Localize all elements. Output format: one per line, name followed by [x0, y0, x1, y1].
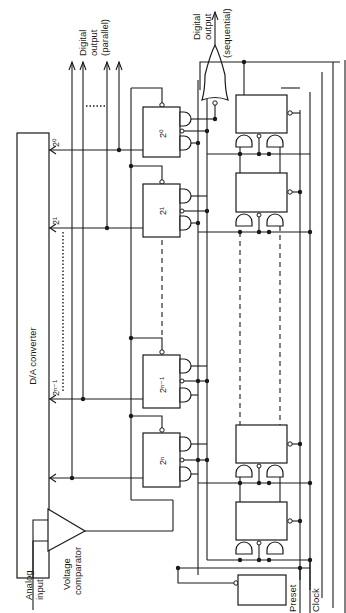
svg-text:(parallel): (parallel) [99, 19, 110, 56]
dac-label: D/A converter [27, 327, 38, 385]
svg-text:(sequential): (sequential) [221, 8, 232, 58]
parallel-output-arrows [69, 62, 122, 478]
svg-text:2¹: 2¹ [158, 207, 168, 215]
svg-text:comparator: comparator [72, 547, 83, 595]
register-bit-2-1: 2¹ [131, 166, 191, 237]
register-bit-2-0: 2⁰ [131, 88, 191, 157]
dac-input-2-1: 2¹ [49, 217, 143, 232]
svg-text:Analog: Analog [23, 570, 34, 600]
svg-text:2ⁿ⁻¹: 2ⁿ⁻¹ [51, 380, 61, 396]
svg-text:input: input [34, 579, 45, 600]
dac-input-2-0: 2⁰ [49, 138, 143, 154]
svg-text:Voltage: Voltage [61, 558, 72, 590]
shift-register-stage-3 [236, 425, 302, 483]
circuit-diagram: D/A converter 2⁰ 2¹ 2ⁿ⁻¹ Digital output … [0, 0, 346, 613]
register-bit-2-n: 2ⁿ [131, 416, 191, 487]
clock-label: Clock [310, 588, 321, 612]
svg-text:output: output [88, 29, 99, 56]
shift-register-stage-5 [178, 568, 286, 605]
dac-input-2-n [49, 474, 143, 482]
svg-text:output: output [202, 13, 213, 40]
preset-label: Preset [287, 584, 298, 612]
register-bit-2-n-1: 2ⁿ⁻¹ [131, 338, 191, 408]
voltage-comparator [48, 509, 85, 551]
svg-text:2ⁿ: 2ⁿ [158, 457, 168, 465]
svg-text:2¹: 2¹ [51, 217, 61, 225]
svg-text:2⁰: 2⁰ [158, 129, 168, 138]
svg-text:2⁰: 2⁰ [51, 138, 61, 147]
svg-text:Digital: Digital [191, 14, 202, 40]
shift-register-stage-2 [236, 173, 302, 232]
gate-connections [184, 119, 207, 474]
shift-register-stage-1 [236, 62, 300, 154]
svg-text:Digital: Digital [77, 30, 88, 56]
svg-text:2ⁿ⁻¹: 2ⁿ⁻¹ [158, 377, 168, 393]
shift-register-stage-4 [236, 502, 302, 560]
